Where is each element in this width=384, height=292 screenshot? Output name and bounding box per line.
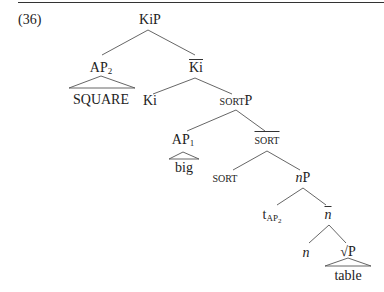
edge-sortbar-np (267, 151, 300, 170)
node-sort-bar: SORT (255, 132, 280, 148)
node-ap2: AP2 (90, 60, 112, 79)
node-trace-sub: AP (266, 213, 278, 223)
node-ap1: AP1 (172, 132, 194, 151)
node-sortp: SORTP (220, 93, 253, 109)
node-sort-bar-label: SORT (255, 131, 280, 147)
node-trace: tAP2 (263, 207, 282, 229)
node-table: table (334, 268, 361, 284)
node-rootp: √P (340, 244, 355, 260)
node-sortp-sc: SORT (220, 93, 245, 108)
edge-sortp-sortbar (236, 110, 265, 131)
edge-kip-kibar (148, 30, 195, 55)
edge-np-nbar (303, 188, 326, 205)
node-rootp-suffix: P (348, 244, 356, 259)
node-sortp-suffix: P (245, 93, 253, 108)
radical-icon: √ (340, 244, 348, 259)
node-square: SQUARE (73, 92, 129, 108)
edge-sortbar-sort (233, 151, 267, 170)
node-np: nP (296, 170, 311, 186)
node-n-bar-label: n (325, 206, 332, 222)
node-n: n (303, 245, 310, 261)
edge-sortp-ap1 (187, 110, 236, 131)
node-np-italic: n (296, 170, 303, 185)
node-ki: Ki (143, 93, 157, 109)
node-ap2-sub: 2 (108, 66, 113, 76)
node-big: big (175, 160, 193, 176)
node-np-suffix: P (303, 170, 311, 185)
edge-kip-ap2 (102, 30, 148, 55)
node-kip: KiP (139, 12, 161, 28)
node-sort: SORT (213, 170, 238, 186)
node-ki-bar: Ki (189, 60, 203, 76)
node-ap1-sub: 1 (190, 138, 195, 148)
edge-kibar-sortp (195, 78, 232, 94)
triangle-big (169, 152, 199, 159)
edge-nbar-n (309, 225, 329, 243)
node-trace-subsub: 2 (278, 217, 282, 225)
edge-np-trace (277, 188, 303, 205)
node-ki-bar-label: Ki (189, 59, 203, 75)
node-ap2-base: AP (90, 60, 108, 75)
edge-kibar-ki (153, 78, 195, 94)
node-n-label: n (303, 245, 310, 260)
node-n-bar: n (325, 207, 332, 223)
edge-nbar-rootp (329, 225, 346, 243)
node-ap1-base: AP (172, 132, 190, 147)
node-sort-label: SORT (213, 170, 238, 185)
